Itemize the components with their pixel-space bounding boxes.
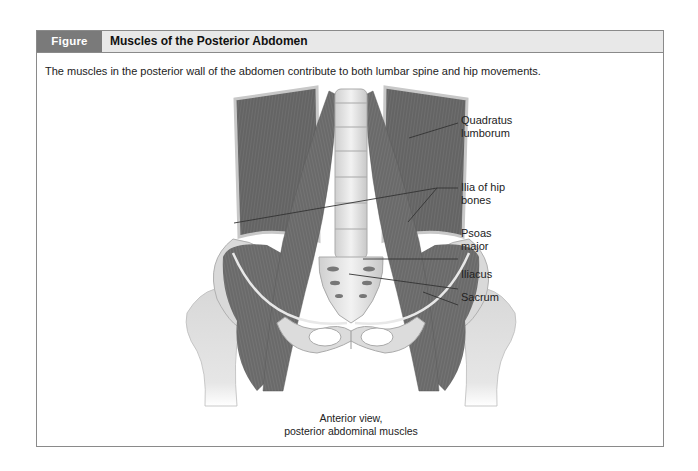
label-line: Psoas (461, 227, 492, 240)
label-line: Ilia of hip (461, 181, 505, 194)
figure-frame: Figure 13.11 Muscles of the Posterior Ab… (36, 30, 664, 447)
view-caption-line1: Anterior view, (37, 412, 665, 425)
label-ilia-of-hip-bones: Ilia of hip bones (461, 181, 505, 207)
label-psoas-major: Psoas major (461, 227, 492, 253)
label-line: Quadratus (461, 114, 512, 127)
view-caption-line2: posterior abdominal muscles (37, 425, 665, 438)
label-line: lumborum (461, 127, 512, 140)
label-quadratus-lumborum: Quadratus lumborum (461, 114, 512, 140)
view-caption: Anterior view, posterior abdominal muscl… (37, 412, 665, 438)
label-sacrum: Sacrum (461, 291, 499, 304)
label-line: Iliacus (461, 268, 492, 281)
label-line: bones (461, 194, 505, 207)
label-line: Sacrum (461, 291, 499, 304)
anatomy-illustration (37, 31, 665, 448)
label-line: major (461, 240, 492, 253)
label-iliacus: Iliacus (461, 268, 492, 281)
